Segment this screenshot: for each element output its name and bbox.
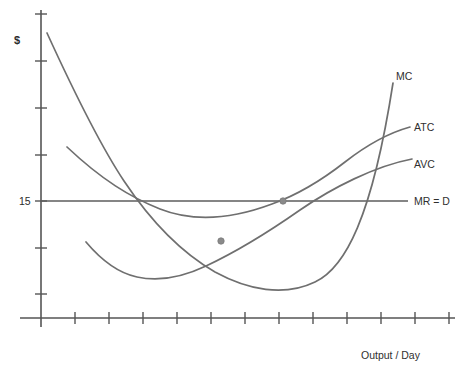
price-tick-label: 15 xyxy=(19,195,31,207)
chart-canvas: $ 15 MC ATC AVC MR = D Output / Day xyxy=(0,0,467,378)
mrd-curve-label: MR = D xyxy=(414,195,450,207)
mc-curve-label: MC xyxy=(396,70,413,82)
x-axis-label: Output / Day xyxy=(361,349,421,361)
y-axis-label: $ xyxy=(14,34,20,46)
equilibrium-point-marker xyxy=(280,198,286,204)
avc-curve-label: AVC xyxy=(414,158,435,170)
mc-curve xyxy=(47,33,393,290)
atc-curve-label: ATC xyxy=(414,121,435,133)
avc-curve xyxy=(86,159,412,279)
shutdown-point-marker xyxy=(218,238,224,244)
axes-group xyxy=(20,10,455,327)
cost-curves-chart: $ 15 MC ATC AVC MR = D Output / Day xyxy=(0,0,467,378)
